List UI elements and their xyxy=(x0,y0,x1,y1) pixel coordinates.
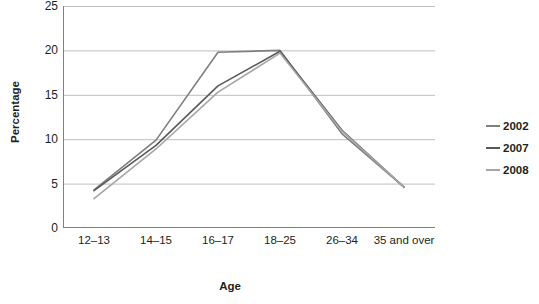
legend-item-2002[interactable]: 2002 xyxy=(486,117,539,135)
y-tick-label: 10 xyxy=(18,133,58,145)
y-tick-label: 20 xyxy=(18,44,58,56)
legend-swatch-2002 xyxy=(486,125,500,127)
gridlines xyxy=(63,7,435,229)
x-tick-label: 35 and over xyxy=(373,234,435,248)
legend-swatch-2008 xyxy=(486,169,500,171)
legend-label-2008: 2008 xyxy=(503,161,529,179)
x-axis-title: Age xyxy=(0,280,460,292)
line-chart: Percentage 0510152025 12–1314–1516–1718–… xyxy=(0,0,539,304)
x-tick-label: 26–34 xyxy=(311,234,373,248)
x-axis-tick-labels: 12–1314–1516–1718–2526–3435 and over xyxy=(63,234,435,280)
legend-label-2002: 2002 xyxy=(503,117,529,135)
plot-svg xyxy=(63,6,435,228)
plot-area xyxy=(63,6,435,228)
y-tick-label: 15 xyxy=(18,89,58,101)
legend-swatch-2007 xyxy=(486,147,500,149)
legend: 200220072008 xyxy=(486,117,539,183)
axis-tick-marks xyxy=(63,7,435,229)
y-tick-label: 0 xyxy=(18,222,58,234)
x-tick-label: 12–13 xyxy=(63,234,125,248)
x-tick-label: 16–17 xyxy=(187,234,249,248)
axis-lines xyxy=(63,6,435,228)
legend-item-2008[interactable]: 2008 xyxy=(486,161,539,179)
legend-label-2007: 2007 xyxy=(503,139,529,157)
legend-item-2007[interactable]: 2007 xyxy=(486,139,539,157)
x-tick-label: 18–25 xyxy=(249,234,311,248)
y-tick-label: 5 xyxy=(18,178,58,190)
y-axis-tick-labels: 0510152025 xyxy=(16,0,58,234)
y-tick-label: 25 xyxy=(18,0,58,12)
data-series xyxy=(94,50,404,198)
series-line-2002 xyxy=(94,50,404,189)
x-tick-label: 14–15 xyxy=(125,234,187,248)
series-line-2008 xyxy=(94,53,404,199)
